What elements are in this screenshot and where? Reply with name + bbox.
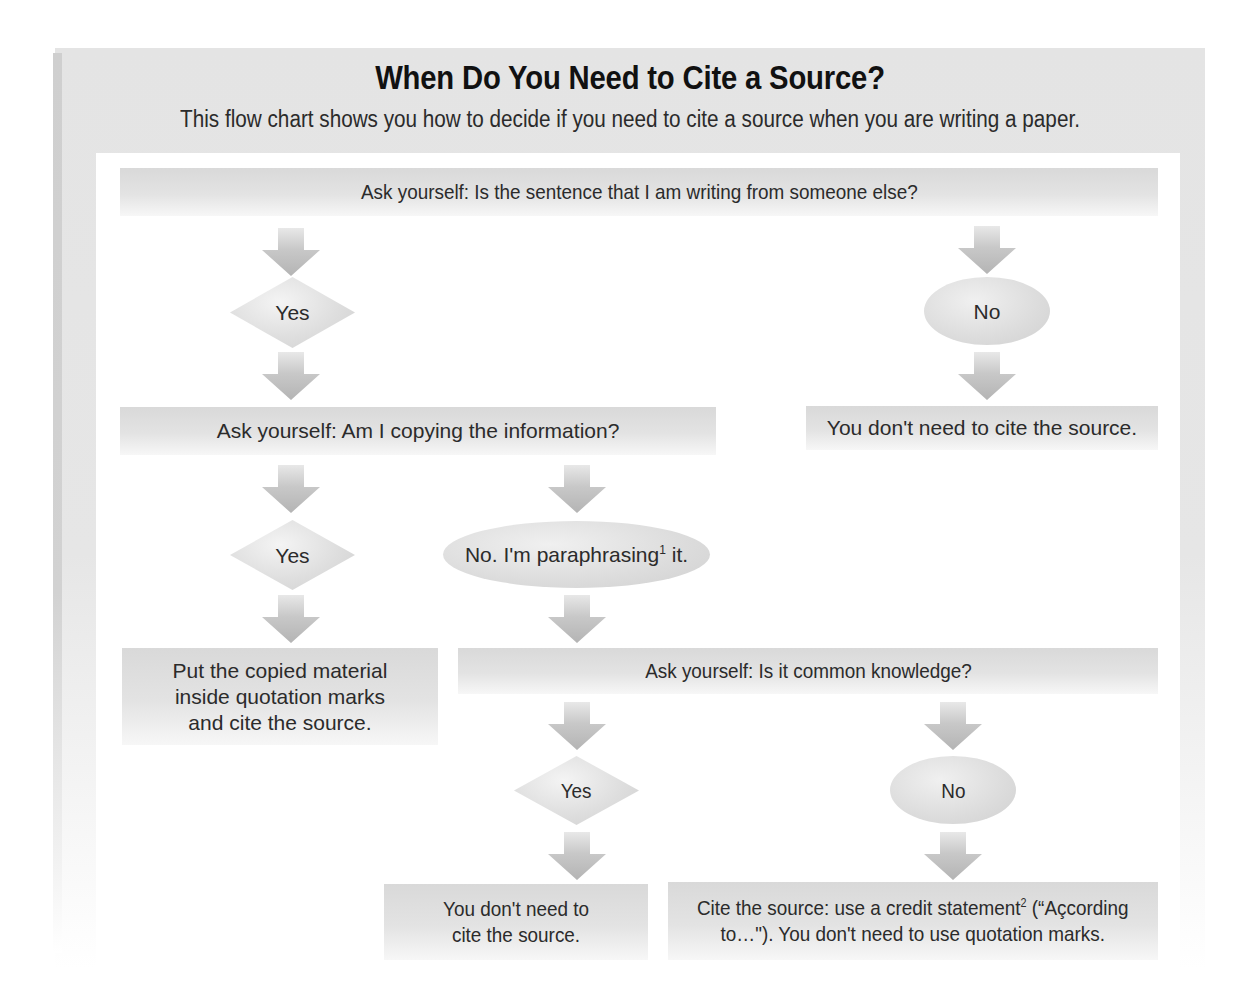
arrow-down-icon	[262, 465, 320, 513]
arrow-down-icon	[548, 702, 606, 750]
q3-yes-label: Yes	[561, 778, 592, 803]
q1-no-label: No	[974, 299, 1001, 324]
q1-no-result-text: You don't need to cite the source.	[827, 415, 1137, 441]
arrow-down-icon	[548, 832, 606, 880]
question-2-text: Ask yourself: Am I copying the informati…	[217, 418, 620, 444]
q2-no-label-word: paraphrasing	[537, 543, 660, 566]
q2-no-label-line1: No. I'm	[465, 543, 531, 566]
q1-yes-label: Yes	[275, 300, 309, 325]
question-3-text: Ask yourself: Is it common knowledge?	[645, 658, 972, 684]
q2-yes-label: Yes	[275, 543, 309, 568]
footnote-1-marker: 1	[659, 543, 666, 557]
page-title: When Do You Need to Cite a Source?	[136, 58, 1125, 97]
q3-no-result-text-b: (“Açcording	[1027, 896, 1129, 919]
question-2-box: Ask yourself: Am I copying the informati…	[120, 407, 716, 455]
q2-yes-result-box: Put the copied material inside quotation…	[122, 648, 438, 745]
q3-no-result-box: Cite the source: use a credit statement2…	[668, 882, 1158, 960]
q3-yes-result-line: You don't need to	[443, 896, 589, 922]
arrow-down-icon	[958, 352, 1016, 400]
q3-no-result-line1: Cite the source: use a credit statement2…	[697, 895, 1128, 921]
q1-no-result-box: You don't need to cite the source.	[806, 406, 1158, 450]
arrow-down-icon	[262, 595, 320, 643]
arrow-down-icon	[548, 595, 606, 643]
q1-no-ellipse: No	[924, 277, 1050, 345]
arrow-down-icon	[958, 226, 1016, 274]
question-3-box: Ask yourself: Is it common knowledge?	[458, 648, 1158, 694]
q2-no-label-line2: paraphrasing1 it.	[537, 543, 688, 566]
q2-no-label-end: it.	[666, 543, 688, 566]
q2-yes-result-line: and cite the source.	[173, 710, 388, 736]
q3-yes-result-line: cite the source.	[443, 922, 589, 948]
q2-yes-result-line: Put the copied material	[173, 658, 388, 684]
q2-no-ellipse: No. I'm paraphrasing1 it.	[443, 521, 710, 588]
arrow-down-icon	[924, 832, 982, 880]
question-1-box: Ask yourself: Is the sentence that I am …	[120, 168, 1158, 216]
frame-edge-strip	[53, 53, 62, 953]
q2-yes-result-line: inside quotation marks	[173, 684, 388, 710]
arrow-down-icon	[262, 228, 320, 276]
arrow-down-icon	[262, 352, 320, 400]
q3-no-result-text-a: Cite the source: use a credit statement	[697, 896, 1021, 919]
q3-yes-result-box: You don't need to cite the source.	[384, 884, 648, 960]
q3-no-ellipse: No	[890, 756, 1016, 824]
page-subtitle: This flow chart shows you how to decide …	[113, 106, 1148, 133]
q3-no-result-line2: to…"). You don't need to use quotation m…	[697, 921, 1128, 947]
arrow-down-icon	[924, 702, 982, 750]
arrow-down-icon	[548, 465, 606, 513]
q3-no-label: No	[941, 778, 965, 803]
question-1-text: Ask yourself: Is the sentence that I am …	[361, 179, 918, 205]
